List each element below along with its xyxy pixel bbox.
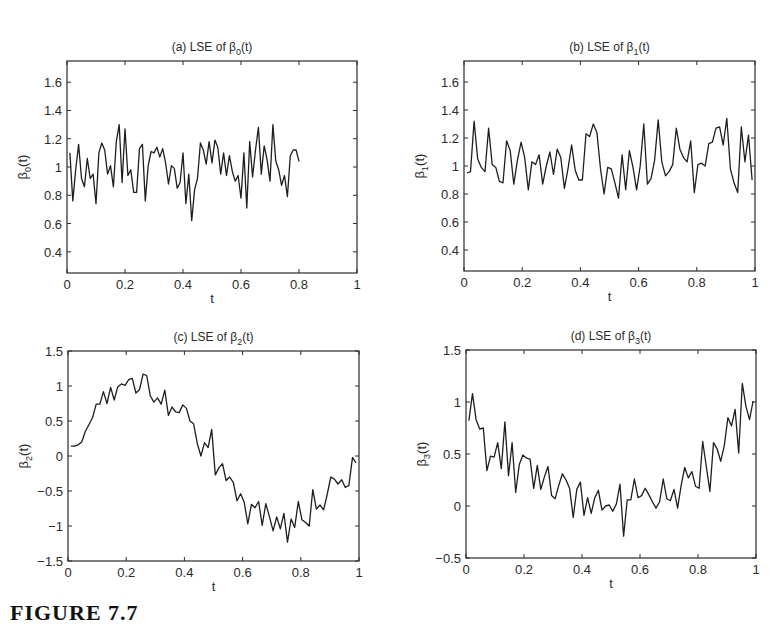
x-tick-label: 0.4 [573,562,591,577]
y-axis-label: β3(t) [414,442,432,467]
y-tick-label: 0.6 [441,215,459,230]
y-tick-label: 0.4 [441,243,459,258]
x-tick-label: 0.8 [292,565,310,580]
y-tick-label: −0.5 [435,551,461,566]
panel-title: (c) LSE of β2(t) [174,330,254,347]
x-tick-label: 0 [64,565,71,580]
panel-a: (a) LSE of β0(t)00.20.40.60.810.40.60.81… [15,40,361,306]
panel-c: (c) LSE of β2(t)00.20.40.60.81−1.5−1−0.5… [16,330,363,594]
y-tick-label: 0.8 [44,188,62,203]
y-axis-label: β2(t) [16,444,34,469]
y-tick-label: 1.4 [44,103,62,118]
x-tick-label: 0.4 [571,275,589,290]
x-tick-label: 0.8 [689,562,707,577]
figure-caption: FIGURE 7.7 [10,600,139,624]
y-tick-label: 1.4 [441,103,459,118]
y-tick-label: −1 [48,519,63,534]
data-line [467,118,752,198]
x-tick-label: 0 [462,562,469,577]
y-tick-label: 0.6 [44,217,62,232]
y-tick-label: 1.5 [443,343,461,358]
y-tick-label: 1 [454,395,461,410]
x-tick-label: 0.2 [513,275,531,290]
y-tick-label: 1 [56,379,63,394]
x-tick-label: 0.4 [175,565,193,580]
y-tick-label: 0.8 [441,187,459,202]
y-tick-label: 0 [454,499,461,514]
y-tick-label: −1.5 [37,554,63,569]
panel-title: (b) LSE of β1(t) [569,40,650,57]
x-tick-label: 0.8 [290,277,308,292]
x-axis-label: t [210,291,214,306]
x-tick-label: 0.6 [232,277,250,292]
y-tick-label: −0.5 [37,484,63,499]
x-tick-label: 1 [353,277,360,292]
x-tick-label: 1 [752,562,759,577]
x-tick-label: 0.6 [631,562,649,577]
y-tick-label: 0.4 [44,245,62,260]
x-tick-label: 0.2 [117,565,135,580]
y-tick-label: 0.5 [45,414,63,429]
y-axis-label: β1(t) [412,154,430,179]
y-tick-label: 1.6 [44,75,62,90]
x-tick-label: 0.2 [116,277,134,292]
x-tick-label: 0.8 [688,275,706,290]
x-tick-label: 1 [355,565,362,580]
y-tick-label: 0 [56,449,63,464]
y-tick-label: 1.5 [45,344,63,359]
y-tick-label: 1 [55,160,62,175]
panel-title: (a) LSE of β0(t) [172,40,253,57]
x-tick-label: 0.2 [515,562,533,577]
data-line [70,125,299,221]
x-tick-label: 0 [460,275,467,290]
x-tick-label: 0.6 [630,275,648,290]
data-line [71,374,356,542]
x-tick-label: 1 [751,275,758,290]
y-tick-label: 1.6 [441,75,459,90]
x-tick-label: 0.4 [174,277,192,292]
x-axis-label: t [608,289,612,304]
y-tick-label: 0.5 [443,447,461,462]
y-tick-label: 1.2 [441,131,459,146]
y-tick-label: 1.2 [44,132,62,147]
panel-b: (b) LSE of β1(t)00.20.40.60.810.40.60.81… [412,40,759,304]
plot-frame [464,61,755,271]
panel-title: (d) LSE of β3(t) [571,329,652,346]
y-tick-label: 1 [452,159,459,174]
x-tick-label: 0.6 [234,565,252,580]
x-axis-label: t [609,576,613,591]
x-axis-label: t [212,579,216,594]
x-tick-label: 0 [63,277,70,292]
panel-d: (d) LSE of β3(t)00.20.40.60.81−0.500.511… [414,329,760,591]
data-line [469,383,753,536]
y-axis-label: β0(t) [15,155,33,180]
